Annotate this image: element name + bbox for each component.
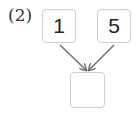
arrow-left-icon: [60, 45, 86, 70]
arrow-right-icon: [89, 45, 114, 70]
arrows: [0, 0, 138, 120]
result-box[interactable]: [70, 72, 105, 108]
